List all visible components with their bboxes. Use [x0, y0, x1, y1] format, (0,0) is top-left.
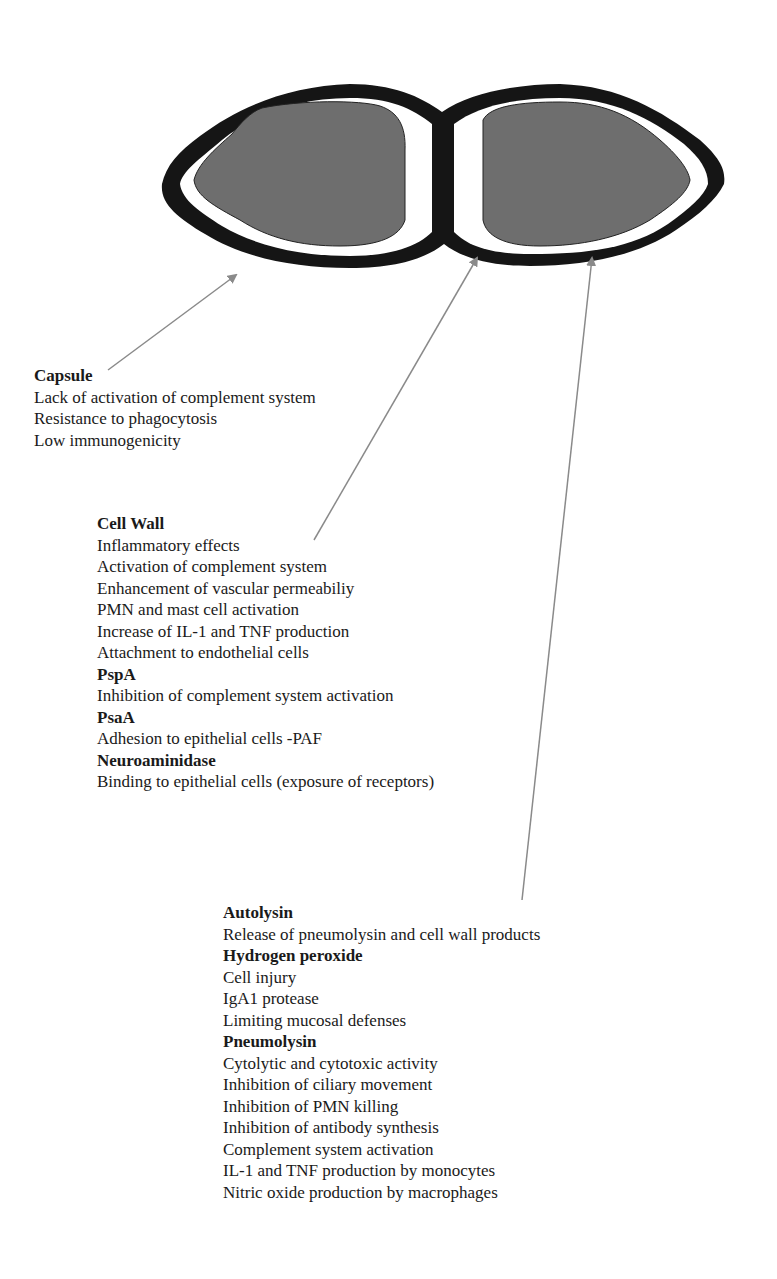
cell-wall-item: Attachment to endothelial cells — [97, 642, 434, 664]
hydrogen-peroxide-item: Limiting mucosal defenses — [223, 1010, 540, 1032]
capsule-annotation: Capsule Lack of activation of complement… — [34, 365, 316, 451]
pneumolysin-item: Nitric oxide production by macrophages — [223, 1182, 540, 1204]
pneumococcus-virulence-diagram: Capsule Lack of activation of complement… — [0, 0, 777, 1279]
pneumolysin-item: IL-1 and TNF production by monocytes — [223, 1160, 540, 1182]
capsule-title: Capsule — [34, 365, 316, 387]
hydrogen-peroxide-title: Hydrogen peroxide — [223, 945, 540, 967]
capsule-arrow — [108, 275, 236, 370]
cell-wall-item: Activation of complement system — [97, 556, 434, 578]
capsule-item: Resistance to phagocytosis — [34, 408, 316, 430]
neuroaminidase-item: Binding to epithelial cells (exposure of… — [97, 771, 434, 793]
pneumolysin-title: Pneumolysin — [223, 1031, 540, 1053]
neuroaminidase-title: Neuroaminidase — [97, 750, 434, 772]
pneumolysin-item: Cytolytic and cytotoxic activity — [223, 1053, 540, 1075]
cell-wall-item: PMN and mast cell activation — [97, 599, 434, 621]
autolysin-title: Autolysin — [223, 902, 540, 924]
intracellular-annotation: Autolysin Release of pneumolysin and cel… — [223, 902, 540, 1203]
cell-wall-arrow — [314, 258, 477, 540]
capsule-item: Low immunogenicity — [34, 430, 316, 452]
cell-wall-item: Enhancement of vascular permeabiliy — [97, 578, 434, 600]
capsule-item: Lack of activation of complement system — [34, 387, 316, 409]
pneumolysin-item: Inhibition of ciliary movement — [223, 1074, 540, 1096]
cell-wall-annotation: Cell Wall Inflammatory effects Activatio… — [97, 513, 434, 793]
pneumolysin-item: Inhibition of PMN killing — [223, 1096, 540, 1118]
cell-wall-item: Inflammatory effects — [97, 535, 434, 557]
intracellular-arrow — [522, 258, 592, 900]
psaa-title: PsaA — [97, 707, 434, 729]
hydrogen-peroxide-item: IgA1 protease — [223, 988, 540, 1010]
pneumolysin-item: Inhibition of antibody synthesis — [223, 1117, 540, 1139]
cell-wall-title: Cell Wall — [97, 513, 434, 535]
pneumolysin-item: Complement system activation — [223, 1139, 540, 1161]
autolysin-item: Release of pneumolysin and cell wall pro… — [223, 924, 540, 946]
hydrogen-peroxide-item: Cell injury — [223, 967, 540, 989]
psaa-item: Adhesion to epithelial cells -PAF — [97, 728, 434, 750]
pspa-item: Inhibition of complement system activati… — [97, 685, 434, 707]
cell-wall-item: Increase of IL-1 and TNF production — [97, 621, 434, 643]
pspa-title: PspA — [97, 664, 434, 686]
